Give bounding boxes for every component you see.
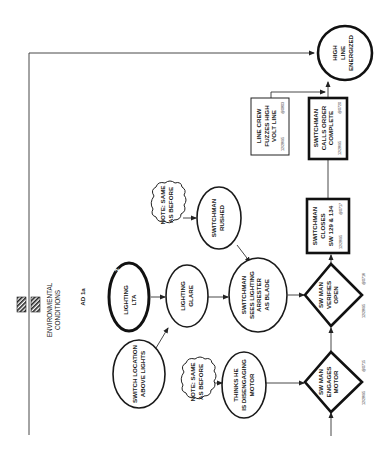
svg-text:LINE: LINE (339, 46, 346, 60)
svg-text:LIGHTING: LIGHTING (122, 285, 129, 315)
svg-text:ENGAGES: ENGAGES (325, 367, 332, 398)
svg-text:CALLS ORDER: CALLS ORDER (320, 105, 327, 150)
condition-switchman-rushed[interactable]: SWITCHMAN RUSHED (197, 187, 241, 249)
svg-text:AS BEFORE: AS BEFORE (167, 187, 174, 223)
svg-text:MOTOR: MOTOR (332, 370, 339, 393)
event-sw-man-verifies-open[interactable]: SW MAN VERIFIES OPEN 12/28/95 @0716 (305, 264, 366, 326)
hatch-icon (31, 297, 40, 312)
condition-thinks-disengaging[interactable]: THINKS HE IS DISENGAGING MOTOR (222, 352, 266, 418)
svg-text:LINE CREW: LINE CREW (255, 108, 262, 143)
event-sw-man-engages-motor[interactable]: SW MAN ENGAGES MOTOR 12/28/95 @0715 (305, 352, 366, 412)
condition-switch-location[interactable]: SWITCH LOCATION ABOVE LIGHTS (113, 340, 165, 408)
svg-text:LTA: LTA (130, 294, 137, 306)
svg-text:FUZZES HIGH: FUZZES HIGH (263, 105, 270, 147)
svg-text:SWITCH LOCATION: SWITCH LOCATION (131, 344, 138, 403)
outcome-high-line-energized[interactable]: HIGH LINE ENERGIZED (318, 26, 372, 80)
svg-text:MOTOR: MOTOR (248, 373, 255, 396)
legend-environmental-conditions: ENVIRONMENTAL CONDITIONS (17, 282, 61, 337)
condition-lighting-glare[interactable]: LIGHTING GLARE (166, 265, 208, 327)
causal-factors-diagram: ENVIRONMENTAL CONDITIONS HIGH LINE ENERG… (0, 0, 384, 472)
svg-text:SWITCHMAN: SWITCHMAN (240, 275, 247, 314)
svg-text:12/28/95: 12/28/95 (338, 141, 342, 155)
svg-text:12/28/95: 12/28/95 (362, 391, 366, 405)
svg-text:@0803: @0803 (281, 102, 285, 114)
event-switchman-closes-sw[interactable]: SWITCHMAN CLOSES SW 129 & 134 12/28/95 @… (307, 199, 349, 253)
event-switchman-calls-order-complete[interactable]: SWITCHMAN CALLS ORDER COMPLETE 12/28/95 … (309, 98, 347, 159)
svg-text:GLARE: GLARE (187, 285, 194, 307)
svg-text:@0715: @0715 (362, 360, 366, 372)
svg-text:VERIFIES: VERIFIES (325, 281, 332, 309)
hatch-icon (17, 297, 26, 312)
svg-text:SWITCHMAN: SWITCHMAN (210, 198, 217, 237)
svg-text:IS DISENGAGING: IS DISENGAGING (240, 359, 247, 411)
lta-badge-band (91, 260, 110, 335)
svg-text:VOLT LINE: VOLT LINE (270, 110, 277, 142)
svg-text:HIGH: HIGH (331, 45, 338, 61)
svg-text:ABOVE LIGHTS: ABOVE LIGHTS (139, 351, 146, 397)
svg-text:SWITCHMAN: SWITCHMAN (311, 206, 318, 245)
svg-text:SW MAN: SW MAN (317, 369, 324, 395)
svg-text:SEES LIGHTING: SEES LIGHTING (248, 271, 255, 319)
svg-text:THINKS HE: THINKS HE (232, 368, 239, 401)
svg-text:OPEN: OPEN (332, 286, 339, 304)
legend-label: ENVIRONMENTAL (46, 282, 53, 337)
svg-text:@0717: @0717 (339, 203, 343, 215)
note-cloud-top: NOTE: SAME AS BEFORE (151, 181, 186, 224)
event-line-crew-fuzzes-line[interactable]: LINE CREW FUZZES HIGH VOLT LINE 12/28/95… (251, 98, 289, 155)
ad-tag: AD 1a (79, 288, 86, 306)
condition-lighting-lta[interactable]: AD 1a 2 LIGHTING LTA (79, 260, 149, 335)
svg-text:LIGHTING: LIGHTING (179, 281, 186, 311)
svg-text:NOTE: SAME: NOTE: SAME (189, 363, 196, 402)
svg-text:SW 129 & 134: SW 129 & 134 (327, 205, 334, 246)
svg-text:SWITCHMAN: SWITCHMAN (312, 108, 319, 147)
svg-text:SW MAN: SW MAN (317, 282, 324, 308)
svg-text:ENERGIZED: ENERGIZED (347, 34, 354, 71)
svg-text:ARRESTER: ARRESTER (255, 277, 262, 312)
svg-text:COMPLETE: COMPLETE (327, 111, 334, 145)
svg-text:12/28/95: 12/28/95 (281, 137, 285, 151)
condition-switchman-sees-arrester[interactable]: SWITCHMAN SEES LIGHTING ARRESTER AS BLAD… (229, 258, 287, 332)
svg-text:NOTE: SAME: NOTE: SAME (159, 186, 166, 225)
lta-badge: 2 (113, 268, 120, 272)
svg-text:CLOSES: CLOSES (319, 213, 326, 238)
svg-text:AS BLADE: AS BLADE (263, 279, 270, 311)
svg-text:12/28/95: 12/28/95 (339, 235, 343, 249)
svg-text:12/28/95: 12/28/95 (362, 304, 366, 318)
legend-label: CONDITIONS (54, 290, 61, 330)
svg-text:@0716: @0716 (362, 273, 366, 285)
note-cloud-bottom: NOTE: SAME AS BEFORE (181, 357, 216, 401)
svg-text:AS BEFORE: AS BEFORE (197, 364, 204, 400)
svg-text:@0720: @0720 (338, 102, 342, 114)
svg-text:RUSHED: RUSHED (218, 204, 225, 231)
